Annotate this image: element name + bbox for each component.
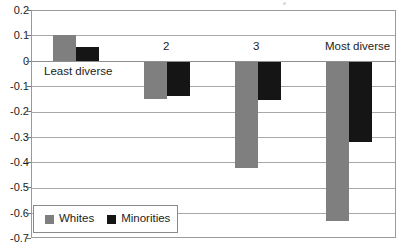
- bar-minorities-3: [258, 62, 281, 100]
- y-tick-label: -0.5: [2, 182, 29, 193]
- category-label-2: 2: [163, 41, 169, 53]
- legend-swatch-icon-whites: [45, 215, 54, 224]
- bar-whites-least-diverse: [53, 35, 76, 61]
- category-label-least-diverse: Least diverse: [44, 66, 112, 78]
- legend-label-minorities: Minorities: [121, 213, 170, 225]
- legend-label-whites: Whites: [59, 213, 94, 225]
- y-axis-labels: 0.2 0.1 0 -0.1 -0.2 -0.3 -0.4 -0.5 -0.6 …: [0, 0, 29, 249]
- y-tick-label: -0.2: [2, 106, 29, 117]
- gridline: [32, 35, 395, 36]
- bar-whites-2: [144, 62, 167, 99]
- chart-legend: Whites Minorities: [33, 205, 178, 233]
- legend-entry-minorities: Minorities: [107, 213, 170, 225]
- legend-entry-whites: Whites: [45, 213, 94, 225]
- bar-whites-3: [235, 62, 258, 168]
- legend-swatch-icon-minorities: [107, 215, 116, 224]
- y-tick-label: -0.4: [2, 157, 29, 168]
- bar-minorities-2: [167, 62, 190, 96]
- y-tick-label: 0: [2, 56, 29, 67]
- y-tick-label: 0.1: [2, 30, 29, 41]
- y-tick-label: -0.7: [2, 233, 29, 244]
- y-tick-label: -0.3: [2, 132, 29, 143]
- scan-artifact-speck: [283, 2, 286, 5]
- y-tick-label: -0.1: [2, 81, 29, 92]
- bar-minorities-most-diverse: [349, 62, 372, 142]
- bar-minorities-least-diverse: [76, 47, 99, 61]
- y-tick-label: -0.6: [2, 208, 29, 219]
- y-axis-tick-mark: [26, 238, 31, 239]
- bar-chart: 0.2 0.1 0 -0.1 -0.2 -0.3 -0.4 -0.5 -0.6 …: [0, 0, 404, 249]
- y-tick-label: 0.2: [2, 5, 29, 16]
- bar-whites-most-diverse: [326, 62, 349, 221]
- category-label-most-diverse: Most diverse: [325, 41, 390, 53]
- category-label-3: 3: [253, 41, 259, 53]
